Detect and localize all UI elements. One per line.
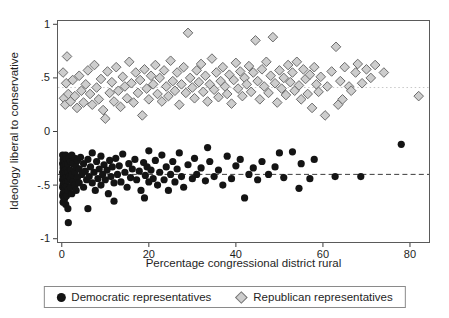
data-point-republican [320,111,330,121]
data-point-democratic [64,205,71,212]
data-point-democratic [204,144,211,151]
x-tick-label: 0 [45,248,79,261]
data-point-democratic [97,153,104,160]
data-point-democratic [156,169,163,176]
data-point-democratic [121,169,128,176]
data-point-democratic [306,175,313,182]
data-point-republican [175,100,185,110]
data-point-republican [379,68,389,78]
plot-frame [58,21,430,243]
x-tick-label: 40 [219,248,253,261]
data-point-republican [183,28,193,38]
data-point-democratic [211,173,218,180]
data-point-democratic [245,171,252,178]
data-point-democratic [206,158,213,165]
data-point-republican [414,91,424,101]
y-tick-label: 0 [0,125,50,138]
data-point-republican [340,62,350,72]
data-point-republican [146,71,156,81]
data-point-republican [58,68,68,78]
data-point-republican [370,60,380,70]
data-point-republican [96,74,106,84]
data-point-republican [124,57,134,67]
data-point-democratic [141,194,148,201]
data-point-democratic [145,147,152,154]
data-point-republican [207,54,217,64]
data-point-democratic [280,174,287,181]
data-point-democratic [228,175,235,182]
data-point-democratic [215,166,222,173]
data-point-republican [166,56,176,66]
data-point-democratic [176,149,183,156]
data-point-democratic [167,171,174,178]
data-point-republican [327,67,337,77]
legend-label-democratic: Democratic representatives [71,291,211,303]
data-point-democratic [165,187,172,194]
data-point-republican [322,82,332,92]
data-point-democratic [174,165,181,172]
data-point-republican [151,60,161,70]
data-point-democratic [133,176,140,183]
data-point-democratic [202,177,209,184]
legend-item-democratic: Democratic representatives [56,291,211,303]
data-point-democratic [147,166,154,173]
plot-area [0,0,449,318]
data-point-democratic [152,157,159,164]
data-point-democratic [224,153,231,160]
data-point-democratic [184,161,191,168]
data-point-democratic [332,173,339,180]
data-point-democratic [105,190,112,197]
data-point-democratic [117,178,124,185]
data-point-republican [144,95,154,105]
filled-circle-icon [56,293,65,302]
data-point-democratic [193,171,200,178]
data-point-republican [336,76,346,86]
data-point-democratic [241,194,248,201]
data-point-republican [351,68,361,78]
data-point-democratic [180,184,187,191]
data-point-republican [105,88,115,98]
data-point-democratic [119,150,126,157]
data-point-democratic [77,154,84,161]
data-point-republican [92,83,102,93]
legend: Democratic representatives Republican re… [43,286,405,308]
x-tick-label: 20 [132,248,166,261]
data-point-democratic [116,162,123,169]
diamond-icon [235,291,248,304]
scatter-plot-figure: Ideology liberal to conservative Percent… [0,0,449,318]
data-point-republican [201,71,211,81]
data-point-democratic [136,168,143,175]
y-tick-label: -.5 [0,179,50,192]
data-point-republican [198,87,208,97]
data-point-republican [133,88,143,98]
x-tick-label: 60 [306,248,340,261]
data-point-democratic [65,219,72,226]
data-point-democratic [110,198,117,205]
data-point-republican [357,78,367,88]
data-point-democratic [289,148,296,155]
data-point-republican [362,65,372,75]
data-point-democratic [92,187,99,194]
data-point-democratic [169,158,176,165]
data-point-democratic [110,179,117,186]
data-point-republican [185,73,195,83]
data-point-republican [331,42,341,52]
data-point-democratic [197,164,204,171]
data-point-democratic [232,162,239,169]
data-point-republican [255,95,265,105]
data-point-democratic [254,176,261,183]
data-point-republican [307,103,317,113]
data-point-democratic [237,156,244,163]
data-point-democratic [311,156,318,163]
data-point-democratic [357,173,364,180]
data-point-republican [227,99,237,109]
data-point-democratic [137,187,144,194]
data-point-republican [107,77,117,87]
y-tick-label: .5 [0,71,50,84]
data-point-republican [103,67,113,77]
data-point-democratic [112,155,119,162]
data-point-democratic [109,163,116,170]
y-tick-label: -1 [0,232,50,245]
data-point-republican [353,59,363,69]
data-point-democratic [160,176,167,183]
